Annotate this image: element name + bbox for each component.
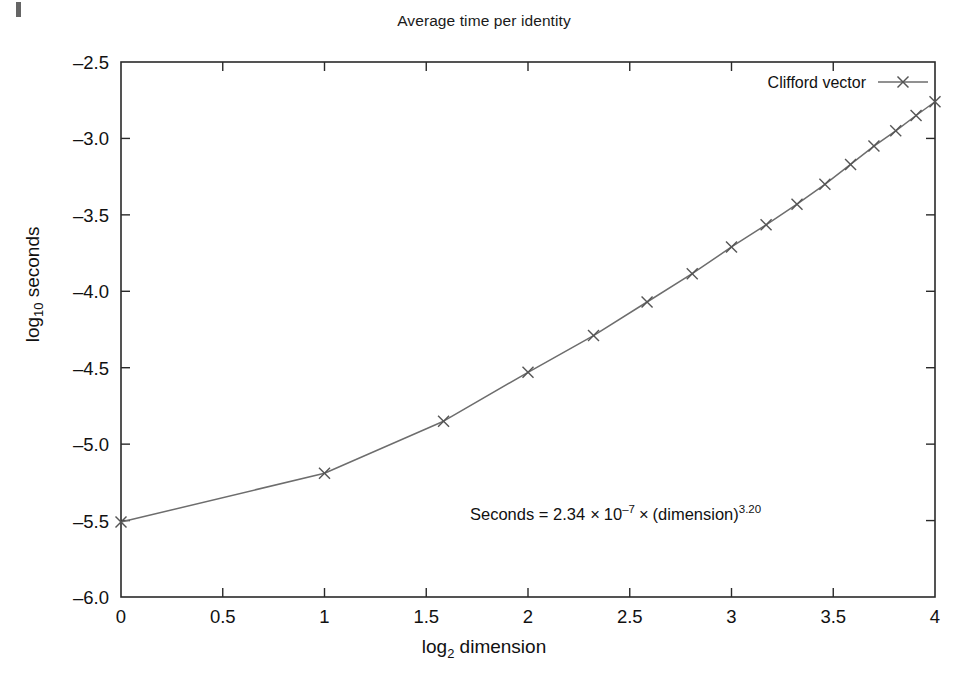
y-tick-label: –6.0: [73, 587, 109, 608]
series-line: [121, 102, 935, 522]
annotation-paren: (dimension): [653, 505, 739, 523]
data-point-marker: [868, 141, 879, 152]
x-tick-label: 0.5: [210, 606, 236, 627]
y-axis-tick-labels: –6.0–5.5–5.0–4.5–4.0–3.5–3.0–2.5: [73, 52, 109, 608]
annotation-times-2: ×: [639, 505, 649, 523]
data-point-marker: [687, 268, 698, 279]
series-clifford-vector: [116, 96, 941, 527]
x-tick-label: 0: [116, 606, 126, 627]
annotation-exponent-1: –7: [622, 503, 635, 515]
annotation-base: 10: [604, 505, 622, 523]
legend[interactable]: Clifford vector: [768, 74, 928, 91]
data-point-marker: [642, 296, 653, 307]
y-tick-label: –3.0: [73, 128, 109, 149]
x-tick-label: 2.5: [617, 606, 643, 627]
data-point-marker: [588, 330, 599, 341]
legend-sample-line: [878, 77, 928, 88]
y-tick-label: –3.5: [73, 205, 109, 226]
data-point-marker: [438, 416, 449, 427]
annotation-prefix: Seconds = 2.34: [470, 505, 585, 523]
data-point-marker: [319, 468, 330, 479]
data-point-marker: [845, 159, 856, 170]
y-tick-label: –5.5: [73, 511, 109, 532]
x-axis-tick-labels: 00.511.522.533.54: [116, 606, 940, 627]
data-point-marker: [726, 241, 737, 252]
data-point-marker: [890, 125, 901, 136]
series-markers: [116, 96, 941, 527]
data-point-marker: [819, 179, 830, 190]
annotation-equation: Seconds = 2.34×10–7×(dimension)3.20: [470, 503, 761, 523]
x-tick-label: 1.5: [413, 606, 439, 627]
x-tick-label: 3.5: [820, 606, 846, 627]
data-point-marker: [761, 219, 772, 230]
annotation-exponent-2: 3.20: [739, 503, 761, 515]
x-tick-label: 2: [523, 606, 533, 627]
annotation-times-1: ×: [590, 505, 600, 523]
annotation-text: Seconds = 2.34×10–7×(dimension)3.20: [470, 503, 761, 523]
data-point-marker: [792, 199, 803, 210]
y-tick-label: –2.5: [73, 52, 109, 73]
y-tick-label: –4.5: [73, 358, 109, 379]
y-tick-label: –4.0: [73, 281, 109, 302]
plot-svg: 00.511.522.533.54 –6.0–5.5–5.0–4.5–4.0–3…: [0, 0, 968, 685]
x-tick-label: 3: [726, 606, 736, 627]
y-tick-label: –5.0: [73, 434, 109, 455]
legend-label-clifford-vector: Clifford vector: [768, 74, 867, 91]
data-point-marker: [911, 110, 922, 121]
y-axis-ticks: [121, 138, 935, 520]
x-tick-label: 1: [319, 606, 329, 627]
x-tick-label: 4: [930, 606, 940, 627]
data-point-marker: [523, 367, 534, 378]
figure-container: Average time per identity log10 seconds …: [0, 0, 968, 685]
